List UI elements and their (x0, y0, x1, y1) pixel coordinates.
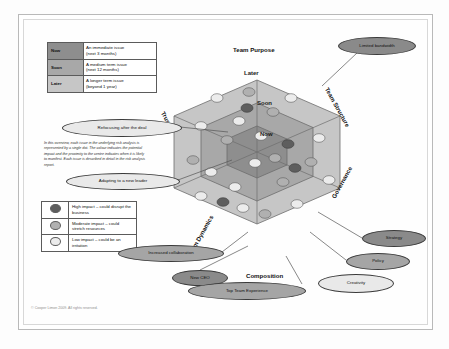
copyright-footer: © Cooper Limon 2009. All rights reserved… (31, 306, 98, 310)
timing-key-later: Later (48, 76, 84, 93)
table-row: Low impact – could be an irritation (42, 235, 137, 252)
timing-key-soon: Soon (48, 59, 84, 76)
table-row: High impact – could disrupt the business (42, 202, 137, 219)
ring-label-soon: Soon (257, 100, 272, 106)
high-impact-swatch-cell (42, 202, 69, 219)
callout-top-team-experience[interactable]: Top Team Experience (188, 282, 306, 300)
impact-legend-table: High impact – could disrupt the business… (41, 201, 137, 252)
timing-desc-now-line1: An immediate issue (86, 45, 124, 50)
axis-label-team-purpose: Team Purpose (233, 46, 275, 53)
ring-label-now: Now (260, 131, 273, 137)
callout-limited-bandwidth[interactable]: Limited bandwidth (338, 37, 416, 55)
callout-increased-collaboration[interactable]: Increased collaboration (118, 245, 224, 262)
callout-refocusing-after-the-deal[interactable]: Refocusing after the deal (62, 119, 182, 137)
table-row: Later A longer term issue (beyond 1 year… (48, 76, 157, 93)
timing-desc-later-line1: A longer term issue (86, 78, 124, 83)
timing-desc-soon-line1: A medium term issue (86, 62, 127, 67)
callout-adapting-to-a-new-leader[interactable]: Adapting to a new leader (66, 173, 180, 190)
callout-policy[interactable]: Policy (346, 253, 410, 270)
timing-desc-soon-line2: (next 12 months) (86, 67, 119, 72)
timing-desc-later: A longer term issue (beyond 1 year) (84, 76, 157, 93)
moderate-impact-dot (50, 221, 61, 230)
timing-desc-now: An immediate issue (next 3 months) (84, 43, 157, 60)
timing-desc-now-line2: (next 3 months) (86, 51, 117, 56)
table-row: Now An immediate issue (next 3 months) (48, 43, 157, 60)
high-impact-label: High impact – could disrupt the business (69, 202, 137, 219)
ring-label-later: Later (244, 70, 259, 76)
low-impact-dot (50, 237, 61, 246)
moderate-impact-label: Moderate impact – could stretch resource… (69, 218, 137, 235)
callout-creativity[interactable]: Creativity (318, 274, 394, 293)
timing-key-now: Now (48, 43, 84, 60)
moderate-impact-swatch-cell (42, 218, 69, 235)
axis-label-composition: Composition (246, 272, 283, 279)
timing-legend-table: Now An immediate issue (next 3 months) S… (47, 42, 157, 93)
callout-strategy[interactable]: Strategy (362, 230, 426, 247)
timing-desc-soon: A medium term issue (next 12 months) (84, 59, 157, 76)
table-row: Soon A medium term issue (next 12 months… (48, 59, 157, 76)
slide-canvas: Now An immediate issue (next 3 months) S… (0, 0, 449, 349)
low-impact-swatch-cell (42, 235, 69, 252)
table-row: Moderate impact – could stretch resource… (42, 218, 137, 235)
timing-desc-later-line2: (beyond 1 year) (86, 84, 117, 89)
overview-description: In this overview, each issue in the unde… (44, 141, 148, 168)
high-impact-dot (50, 204, 61, 213)
